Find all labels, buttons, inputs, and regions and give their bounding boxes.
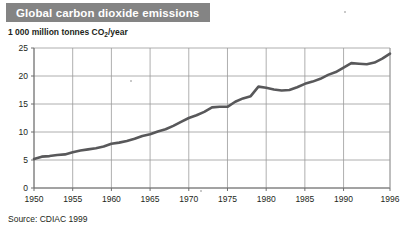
x-axis-tick-label: 1980 <box>246 195 286 204</box>
chart-area: 0510152025 19501955196019651970197519801… <box>0 0 408 234</box>
x-axis-tick-label: 1955 <box>53 195 93 204</box>
data-series-layer <box>34 54 390 159</box>
x-axis-tick-label: 1985 <box>285 195 325 204</box>
x-axis-tick-label: 1996 <box>370 195 408 204</box>
x-axis-tick-label: 1950 <box>14 195 54 204</box>
y-axis-tick-label: 5 <box>2 156 28 165</box>
axis-ticks <box>31 48 390 191</box>
y-axis-tick-label: 10 <box>2 128 28 137</box>
x-axis-tick-label: 1965 <box>130 195 170 204</box>
y-axis-tick-label: 15 <box>2 100 28 109</box>
x-axis-tick-label: 1975 <box>207 195 247 204</box>
scan-speck <box>344 11 346 13</box>
y-axis-tick-label: 20 <box>2 72 28 81</box>
y-axis-tick-label: 0 <box>2 184 28 193</box>
grid-lines <box>34 48 390 188</box>
x-axis-tick-label: 1990 <box>324 195 364 204</box>
scan-speck <box>130 80 132 82</box>
x-axis-tick-label: 1970 <box>169 195 209 204</box>
source-note: Source: CDIAC 1999 <box>8 214 87 224</box>
scan-speck <box>200 190 202 192</box>
x-axis-tick-label: 1960 <box>91 195 131 204</box>
axis-lines <box>34 48 390 188</box>
y-axis-tick-label: 25 <box>2 44 28 53</box>
